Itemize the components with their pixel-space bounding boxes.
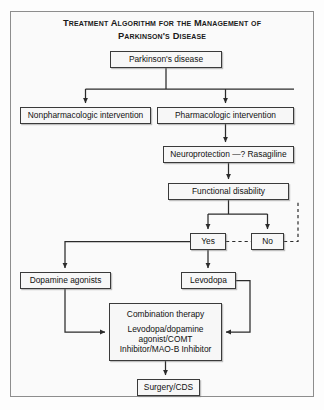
node-label: Levodopa <box>190 275 227 286</box>
node-label: Parkinson's disease <box>129 54 203 65</box>
node-neuroprotection-rasagiline[interactable]: Neuroprotection —? Rasagiline <box>163 146 294 163</box>
node-combination-therapy[interactable]: Combination therapy Levodopa/dopamine ag… <box>109 303 222 361</box>
node-levodopa[interactable]: Levodopa <box>181 272 236 289</box>
edge-yes-dopamine <box>65 242 190 269</box>
combination-therapy-detail-2: agonist/COMT <box>139 334 193 344</box>
edge-no-feedback-dashed <box>284 200 298 242</box>
node-label: No <box>262 236 273 247</box>
node-parkinsons-disease[interactable]: Parkinson's disease <box>110 51 222 68</box>
node-label: Nonpharmacologic intervention <box>28 110 143 121</box>
node-label: Functional disability <box>192 186 265 197</box>
node-decision-yes[interactable]: Yes <box>190 233 226 250</box>
node-dopamine-agonists[interactable]: Dopamine agonists <box>20 272 111 289</box>
node-label: Dopamine agonists <box>30 275 102 286</box>
node-label: Neuroprotection —? Rasagiline <box>170 149 286 160</box>
combination-therapy-heading: Combination therapy <box>127 309 204 320</box>
figure-canvas: Treatment Algorithm for the Management o… <box>0 0 324 410</box>
combination-therapy-detail-3: Inhibitor/MAO-B Inhibitor <box>120 344 212 354</box>
node-surgery-cds[interactable]: Surgery/CDS <box>137 379 200 396</box>
node-functional-disability[interactable]: Functional disability <box>168 183 289 200</box>
node-pharmacologic-intervention[interactable]: Pharmacologic intervention <box>157 107 294 124</box>
node-decision-no[interactable]: No <box>251 233 284 250</box>
combination-therapy-detail-1: Levodopa/dopamine <box>128 324 204 334</box>
node-nonpharmacologic-intervention[interactable]: Nonpharmacologic intervention <box>20 107 151 124</box>
edge-dopamine-combo <box>65 289 105 332</box>
node-label: Surgery/CDS <box>144 382 193 393</box>
node-label: Yes <box>201 236 215 247</box>
node-label: Pharmacologic intervention <box>175 110 276 121</box>
